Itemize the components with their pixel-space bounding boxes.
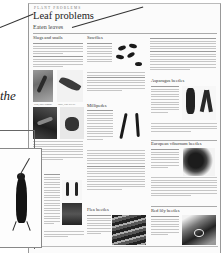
millipede-photo (62, 180, 82, 200)
footer-rule (32, 246, 218, 247)
section-text-col3-top (150, 38, 216, 78)
section-text-sawflies-2 (87, 72, 145, 98)
section-text-col1-bottom (44, 231, 84, 243)
section-text-flea-beetles (87, 215, 111, 243)
earwig-photo (6, 163, 36, 243)
weevil-photo (60, 107, 84, 139)
asparagus-beetle-photo (182, 86, 216, 120)
section-heading-viburnum: European viburnum beetles (151, 141, 202, 146)
section-text-viburnum-2 (151, 177, 217, 203)
page-subtitle: Eaten leaves (33, 24, 63, 30)
section-heading-flea-beetles: Flea beetles (87, 207, 109, 212)
page-title: Leaf problems (33, 10, 94, 21)
section-heading-lily: Red lily beetles (151, 208, 180, 213)
beetle-on-leaf-photo (33, 107, 57, 139)
caption-slug: Slug, snail damage (34, 103, 52, 106)
sawfly-larvae-photo (113, 42, 143, 70)
flea-beetle-photo (112, 215, 146, 245)
viburnum-beetle-photo (183, 148, 215, 176)
section-text-asparagus-2 (151, 123, 217, 137)
lily-beetle-photo (182, 215, 216, 245)
earwig-photo-card (0, 148, 42, 248)
section-heading-slugs: Slugs and snails (33, 35, 63, 40)
section-text-lily (151, 216, 179, 244)
section-text-viburnum (151, 149, 179, 175)
caption-snail: Snail, vine weevil (58, 103, 75, 106)
section-heading-sawflies: Sawflies (87, 35, 103, 40)
divider-lily (151, 206, 217, 207)
header-rule (33, 33, 217, 34)
millipede-long-photo (116, 110, 146, 144)
section-text-slugs (33, 43, 83, 69)
section-text-millipedes-2 (87, 150, 145, 202)
section-text-sawflies (87, 43, 112, 71)
section-text-asparagus (151, 86, 179, 122)
section-heading-millipedes: Millipedes (87, 103, 107, 108)
slug-damage-photo (33, 70, 53, 102)
section-heading-asparagus: Asparagus beetles (151, 78, 184, 83)
caterpillar-photo (57, 70, 83, 102)
side-text-fragment: the (0, 88, 16, 104)
section-text-millipedes (87, 110, 113, 148)
millipede-detail-photo (62, 203, 82, 225)
